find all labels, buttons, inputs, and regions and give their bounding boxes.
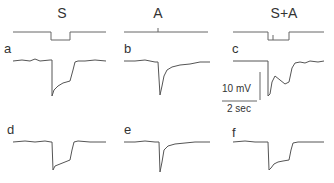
- trace-b: [124, 60, 210, 95]
- trace-d: [13, 141, 106, 170]
- panel-label-f: f: [232, 125, 236, 140]
- electrophysiology-figure: S A S+A a b c 10 mV 2 sec d e f: [0, 0, 334, 183]
- stimulus-trace-s-plus-a: [233, 32, 324, 40]
- scale-label-time: 2 sec: [227, 103, 251, 114]
- panel-label-b: b: [124, 41, 131, 56]
- scale-label-voltage: 10 mV: [222, 83, 251, 94]
- column-header-s: S: [57, 5, 66, 21]
- panel-label-e: e: [124, 122, 131, 137]
- panel-label-a: a: [4, 41, 12, 56]
- panel-label-c: c: [232, 41, 239, 56]
- column-header-a: A: [153, 5, 163, 21]
- trace-f: [233, 141, 324, 170]
- stimulus-trace-s: [13, 32, 106, 40]
- trace-e: [124, 141, 210, 172]
- column-header-s-plus-a: S+A: [271, 5, 299, 21]
- trace-a: [13, 59, 106, 96]
- panel-label-d: d: [7, 122, 14, 137]
